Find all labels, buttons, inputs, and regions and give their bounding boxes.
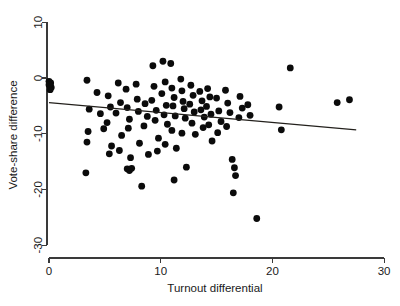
y-axis-tick-label: -10 (32, 125, 44, 142)
data-point (209, 138, 216, 145)
data-point (149, 62, 156, 69)
data-point (214, 129, 221, 136)
data-point (346, 96, 353, 103)
data-point (171, 94, 178, 101)
data-point (167, 60, 174, 67)
data-point (190, 92, 197, 99)
data-point (108, 143, 115, 150)
data-point (181, 105, 188, 112)
data-point (230, 189, 237, 196)
scatter-plot-canvas: 100-10-20-30 0102030 Turnout differentia… (0, 0, 400, 306)
data-point (179, 87, 186, 94)
data-point (158, 90, 165, 97)
data-point (154, 148, 161, 155)
data-point (187, 82, 194, 89)
data-point (215, 107, 222, 114)
data-point (162, 141, 169, 148)
data-point (97, 110, 104, 117)
data-point (253, 215, 260, 222)
data-point (177, 76, 184, 83)
data-point (218, 118, 225, 125)
data-point (105, 92, 112, 99)
data-point (94, 89, 101, 96)
data-point (141, 123, 148, 130)
data-point (182, 115, 189, 122)
data-point (199, 97, 206, 104)
data-point (278, 126, 285, 133)
data-point (189, 120, 196, 127)
data-point (222, 87, 229, 94)
y-axis-title: Vote-share difference (7, 80, 19, 189)
data-point (136, 140, 143, 147)
y-axis-tick-label: -20 (32, 181, 44, 198)
data-point (104, 119, 111, 126)
data-point (162, 79, 169, 86)
data-point (186, 101, 193, 108)
data-point (82, 169, 89, 176)
data-point (223, 123, 230, 130)
data-point (206, 94, 213, 101)
data-point (276, 104, 283, 111)
data-point (135, 108, 142, 115)
x-axis-tick-label: 0 (46, 265, 52, 277)
x-axis: 0102030 (46, 258, 391, 277)
data-point (237, 93, 244, 100)
data-point (85, 128, 92, 135)
data-point (148, 97, 155, 104)
data-point (151, 83, 158, 90)
data-point (46, 81, 53, 88)
data-point (127, 154, 134, 161)
data-point (170, 102, 177, 109)
data-point (106, 150, 113, 157)
y-axis-tick-label: -30 (32, 237, 44, 254)
data-point (179, 130, 186, 137)
data-point (213, 95, 220, 102)
data-point (115, 80, 122, 87)
data-point (168, 85, 175, 92)
data-point (191, 109, 198, 116)
data-point (164, 121, 171, 128)
y-axis-tick-label: 0 (32, 75, 44, 81)
data-point (155, 135, 162, 142)
data-point (287, 65, 294, 72)
x-axis-tick-label: 20 (266, 265, 279, 277)
data-point (204, 85, 211, 92)
data-point (116, 147, 123, 154)
data-point (134, 96, 141, 103)
data-point (163, 102, 170, 109)
data-point (138, 183, 145, 190)
data-point (224, 100, 231, 107)
data-point (84, 77, 91, 84)
data-point (203, 103, 210, 110)
y-axis-tick-label: 10 (32, 16, 44, 29)
data-point (142, 100, 149, 107)
data-point (232, 172, 239, 179)
data-point (168, 127, 175, 134)
y-axis: 100-10-20-30 (32, 16, 47, 254)
data-point (123, 86, 130, 93)
data-point (107, 104, 114, 111)
data-point (171, 177, 178, 184)
data-point (84, 139, 91, 146)
data-point (125, 125, 132, 132)
data-point (126, 116, 133, 123)
data-point (160, 58, 167, 65)
data-point (145, 151, 152, 158)
data-point (183, 164, 190, 171)
data-point (244, 101, 251, 108)
data-point (117, 99, 124, 106)
data-point (152, 117, 159, 124)
data-point (180, 98, 187, 105)
data-point (334, 99, 341, 106)
data-point (205, 121, 212, 128)
data-point (133, 81, 140, 88)
data-point (144, 113, 151, 120)
x-axis-tick-label: 30 (378, 265, 391, 277)
data-point (229, 156, 236, 163)
data-point (128, 165, 135, 172)
x-axis-title: Turnout differential (167, 282, 262, 294)
data-point (247, 112, 254, 119)
data-point (231, 164, 238, 171)
data-point (113, 110, 120, 117)
data-points-layer (46, 58, 353, 222)
